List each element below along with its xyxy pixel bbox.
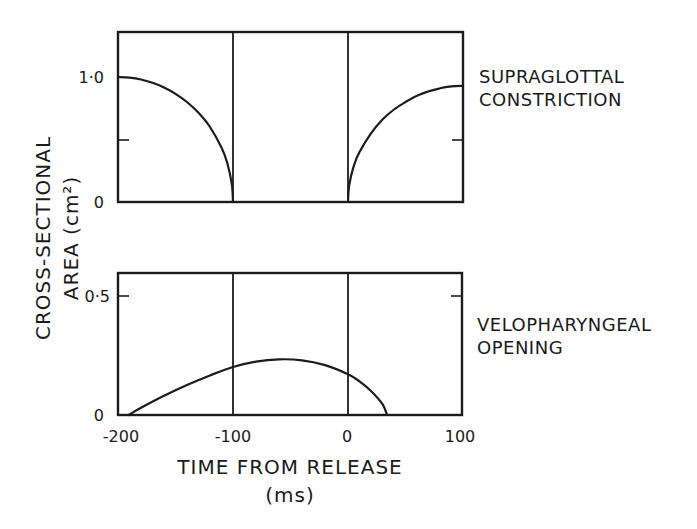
panel-frame [118,32,463,202]
panel-label-line1: VELOPHARYNGEAL [477,314,651,335]
panel-supraglottal: 1·0 0 SUPRAGLOTTAL CONSTRICTION [79,32,625,212]
panel-velopharyngeal: 0·5 0 VELOPHARYNGEAL OPENING [85,273,652,425]
x-tick-label: 0 [342,427,352,446]
y-tick-label-1: 1·0 [79,68,104,87]
y-tick-label-05: 0·5 [85,287,110,306]
x-tick-label: -200 [103,427,139,446]
x-tick-label: 100 [445,427,476,446]
x-axis: -200 -100 0 100 TIME FROM RELEASE (ms) [103,427,475,507]
x-axis-label-line2: (ms) [265,483,315,507]
y-axis-label-line1: CROSS-SECTIONAL [31,136,55,340]
panel-label-line2: OPENING [477,337,563,358]
y-axis-label-line2: AREA (cm²) [59,176,83,300]
panel-label-line2: CONSTRICTION [479,89,622,110]
y-axis-label: CROSS-SECTIONAL AREA (cm²) [31,136,83,340]
y-tick-label-0: 0 [94,193,104,212]
figure: CROSS-SECTIONAL AREA (cm²) 1·0 0 SUPRAGL… [0,0,697,529]
curve-opening [348,86,463,202]
panel-label-line1: SUPRAGLOTTAL [479,66,624,87]
x-tick-label: -100 [215,427,251,446]
curve-closing [118,77,233,202]
y-tick-label-0: 0 [94,406,104,425]
x-axis-label-line1: TIME FROM RELEASE [176,455,402,479]
